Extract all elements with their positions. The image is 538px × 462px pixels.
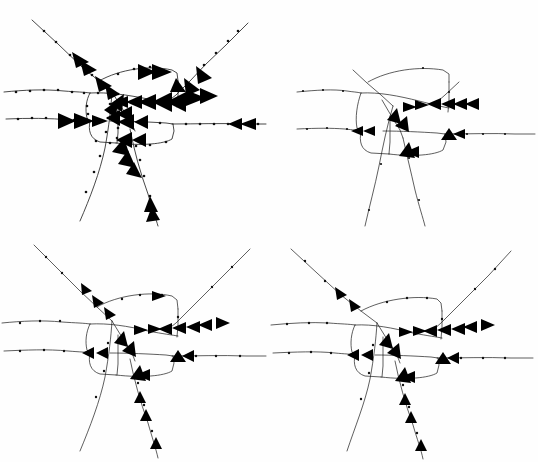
network-links <box>297 69 535 227</box>
panel-top-right <box>269 0 538 231</box>
panel-bottom-right <box>269 231 538 462</box>
panel-bottom-left <box>0 231 269 462</box>
figure-root <box>0 0 538 462</box>
network-links <box>4 20 266 226</box>
panel-bottom-right-canvas <box>269 231 538 462</box>
flow-arrows <box>58 52 256 222</box>
panel-top-left-canvas <box>0 0 269 231</box>
flow-tick-marks <box>302 67 506 211</box>
flow-arrows <box>335 287 495 451</box>
flow-arrows <box>81 283 230 449</box>
flow-arrows <box>351 98 479 158</box>
panel-top-right-canvas <box>269 0 538 231</box>
panel-top-left <box>0 0 269 231</box>
flow-tick-marks <box>19 256 241 432</box>
network-links <box>271 249 533 459</box>
panel-bottom-left-canvas <box>0 231 269 462</box>
